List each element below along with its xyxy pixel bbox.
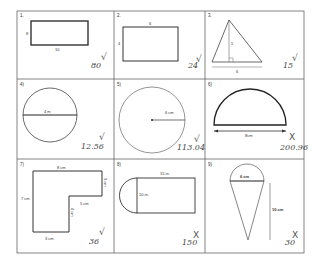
check-mark-icon: √ (99, 132, 105, 142)
answer-text: 80 (91, 61, 101, 70)
worksheet: 1. 8 10 80 √ 2. 6 4 24 √ 3. 5 6 15 √ 4) … (0, 0, 321, 267)
grid-border (17, 11, 304, 253)
problem-number: 7) (20, 162, 25, 167)
problem-number: 3. (208, 13, 212, 18)
problem-number: 8) (117, 162, 122, 167)
problem-8: 8) 15 in. 10 in. X 150 (117, 162, 199, 247)
dimension-label: 10 (55, 47, 60, 52)
dimension-label: 7 cm (21, 196, 30, 201)
triangle-shape (212, 20, 262, 62)
dimension-label: 8 cm (57, 165, 66, 170)
answer-text: 200.96 (279, 143, 308, 152)
dimension-label: 4 m (44, 109, 51, 114)
dimension-label: 4 (118, 41, 121, 46)
problem-7: 7) 8 cm 3 cm 7 cm 5 cm 4 cm 3 cm 36 √ (20, 162, 108, 246)
right-angle-marker (229, 58, 233, 62)
cone-shape (230, 181, 264, 240)
semicircle-shape (120, 178, 138, 213)
dimension-label: 10 in. (139, 192, 149, 197)
answer-text: 12.56 (81, 142, 104, 151)
arrow-right-icon (282, 130, 286, 133)
problem-number: 2. (117, 13, 121, 18)
problem-2: 2. 6 4 24 √ (117, 13, 202, 70)
dimension-label: 5 (231, 41, 234, 46)
dimension-label: 10 cm (272, 207, 284, 212)
problem-number: 9) (208, 162, 213, 167)
rectangle-shape (123, 27, 178, 61)
check-mark-icon: √ (196, 54, 202, 64)
problem-6: 6) 8cm X 200.96 (208, 82, 308, 152)
rectangle-shape (31, 21, 88, 45)
check-mark-icon: √ (101, 52, 107, 62)
dimension-label: 8cm (245, 133, 253, 138)
answer-text: 113.04 (177, 143, 205, 152)
cross-mark-icon: X (292, 230, 298, 240)
problem-9: 9) 6 cm 10 cm 30 X (208, 162, 298, 247)
problem-number: 4) (20, 82, 25, 87)
dimension-label: 6 cm (165, 110, 174, 115)
dimension-label: 3 cm (103, 178, 108, 187)
problem-5: 5) 6 cm 113.04 √ (117, 82, 205, 153)
problem-number: 1. (20, 13, 24, 18)
problem-number: 6) (208, 82, 213, 87)
dimension-label: 8 (26, 31, 29, 36)
l-shape (33, 171, 102, 232)
semicircle-shape (214, 89, 286, 125)
check-mark-icon: √ (99, 227, 105, 237)
dimension-label: 3 cm (45, 236, 54, 241)
arrow-left-icon (214, 130, 218, 133)
dimension-label: 15 in. (160, 171, 170, 176)
dimension-label: 6 (236, 69, 239, 74)
dimension-label: 4 cm (70, 208, 75, 217)
problem-3: 3. 5 6 15 √ (208, 13, 298, 74)
dimension-label: 6 (149, 21, 152, 26)
problem-4: 4) 4 m 12.56 √ (20, 82, 105, 151)
answer-text: 36 (89, 237, 99, 246)
dimension-label: 5 cm (80, 201, 89, 206)
cross-mark-icon: X (289, 132, 295, 142)
problem-1: 1. 8 10 80 √ (20, 13, 107, 70)
check-mark-icon: √ (194, 134, 200, 144)
problem-number: 5) (117, 82, 122, 87)
answer-text: 150 (182, 238, 197, 247)
grid (17, 11, 304, 253)
dimension-label: 6 cm (240, 174, 250, 179)
check-mark-icon: √ (292, 53, 298, 63)
